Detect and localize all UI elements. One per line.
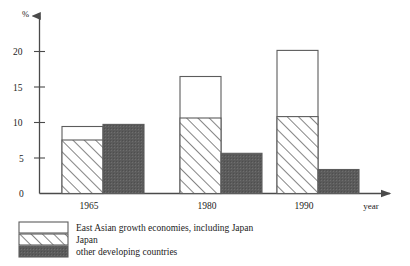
bar-1965-japan[interactable] <box>62 140 103 194</box>
white-swatch-icon <box>19 222 68 233</box>
legend-item-east-asian[interactable]: East Asian growth economies, including J… <box>19 222 254 233</box>
bar-1980-other-developing[interactable] <box>221 153 262 193</box>
x-category-label-1965: 1965 <box>80 201 99 211</box>
bar-group-1990[interactable]: 1990 <box>277 50 359 211</box>
bar-1980-japan[interactable] <box>180 118 221 194</box>
bar-1965-other-developing[interactable] <box>103 124 144 193</box>
dark-swatch-icon <box>19 246 68 257</box>
legend-label-other-developing: other developing countries <box>76 247 178 257</box>
y-tick-label-5: 5 <box>19 154 24 164</box>
chart-container: % 20 15 10 5 0 1965 1980 <box>0 0 410 266</box>
bar-1990-other-developing[interactable] <box>318 170 359 194</box>
x-category-label-1990: 1990 <box>295 201 314 211</box>
y-tick-label-20: 20 <box>13 47 23 57</box>
x-axis-title: year <box>363 201 379 211</box>
y-axis-unit-label: % <box>22 9 29 19</box>
y-tick-label-15: 15 <box>13 83 23 93</box>
legend-label-japan: Japan <box>76 235 98 245</box>
bar-group-1965[interactable]: 1965 <box>62 124 144 211</box>
bar-1990-japan[interactable] <box>277 117 318 194</box>
legend-item-other-developing[interactable]: other developing countries <box>19 246 178 257</box>
y-tick-label-0: 0 <box>19 189 24 199</box>
legend: East Asian growth economies, including J… <box>19 222 254 257</box>
bar-group-1980[interactable]: 1980 <box>180 77 262 212</box>
y-tick-label-10: 10 <box>13 118 23 128</box>
legend-label-east-asian: East Asian growth economies, including J… <box>76 223 254 233</box>
hatched-swatch-icon <box>19 234 68 245</box>
legend-item-japan[interactable]: Japan <box>19 234 98 245</box>
bar-chart-figure: % 20 15 10 5 0 1965 1980 <box>0 0 410 266</box>
x-category-label-1980: 1980 <box>198 201 217 211</box>
